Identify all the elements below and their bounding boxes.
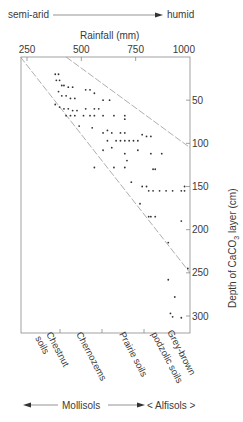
data-point xyxy=(59,79,61,81)
data-point xyxy=(93,167,95,169)
soil-label-chernozems: Chernozems xyxy=(74,330,109,383)
data-point xyxy=(161,153,163,155)
data-point xyxy=(137,140,139,142)
data-point xyxy=(120,132,122,134)
data-point xyxy=(124,167,126,169)
data-point xyxy=(148,190,150,192)
data-point xyxy=(124,140,126,142)
data-point xyxy=(167,242,169,244)
soil-labels: soils Chestnut Chernozems Prairie soils … xyxy=(33,328,198,385)
data-point xyxy=(180,317,182,319)
semi-arid-label: semi-arid xyxy=(8,9,49,20)
data-point xyxy=(58,73,60,75)
data-point xyxy=(93,108,95,110)
data-point xyxy=(115,140,117,142)
data-point xyxy=(89,89,91,91)
x-axis-title: Rainfall (mm) xyxy=(80,30,139,41)
data-point xyxy=(109,99,111,101)
data-point xyxy=(63,108,65,110)
data-point xyxy=(184,186,186,188)
data-point xyxy=(93,115,95,117)
data-point xyxy=(70,98,72,100)
data-point xyxy=(61,85,63,87)
mollisols-label: Mollisols xyxy=(62,400,100,411)
data-points xyxy=(54,73,188,318)
data-point xyxy=(111,132,113,134)
data-point xyxy=(70,115,72,117)
data-point xyxy=(154,216,156,218)
data-point xyxy=(174,296,176,298)
x-axis-ticks: 2505007501000 xyxy=(19,44,196,61)
data-point xyxy=(133,140,135,142)
data-point xyxy=(165,190,167,192)
humid-label: humid xyxy=(167,9,194,20)
data-point xyxy=(150,136,152,138)
y-tick-label: 250 xyxy=(192,267,209,278)
data-point xyxy=(167,279,169,281)
data-point xyxy=(124,132,126,134)
data-point xyxy=(139,203,141,205)
data-point xyxy=(146,136,148,138)
data-point xyxy=(72,86,74,88)
data-point xyxy=(111,147,113,149)
x-tick-label: 500 xyxy=(73,44,90,55)
data-point xyxy=(74,115,76,117)
data-point xyxy=(93,92,95,94)
plot-frame xyxy=(21,57,190,333)
data-point xyxy=(61,95,63,97)
data-point xyxy=(150,153,152,155)
alfisols-label: < Alfisols > xyxy=(147,400,196,411)
data-point xyxy=(126,160,128,162)
data-point xyxy=(141,186,143,188)
data-point xyxy=(124,153,126,155)
data-point xyxy=(102,132,104,134)
arrow-right-icon xyxy=(155,13,163,18)
data-point xyxy=(130,181,132,183)
data-point xyxy=(107,129,109,131)
data-point xyxy=(172,190,174,192)
data-point xyxy=(65,95,67,97)
data-point xyxy=(148,216,150,218)
arrow-right-icon xyxy=(137,403,145,408)
data-point xyxy=(154,168,156,170)
data-point xyxy=(67,108,69,110)
data-point xyxy=(187,268,189,270)
data-point xyxy=(102,115,104,117)
data-point xyxy=(91,127,93,129)
envelope-lower-bound xyxy=(20,57,190,273)
x-tick-label: 750 xyxy=(127,44,144,55)
data-point xyxy=(124,115,126,117)
data-point xyxy=(107,140,109,142)
x-tick-label: 250 xyxy=(19,44,36,55)
data-point xyxy=(150,216,152,218)
climate-gradient-header: semi-arid humid xyxy=(8,9,194,20)
data-point xyxy=(152,168,154,170)
scatter-chart: semi-arid humid Rainfall (mm) 2505007501… xyxy=(0,0,243,422)
data-point xyxy=(120,140,122,142)
y-axis-ticks: 50100150200250300 xyxy=(186,95,209,322)
data-point xyxy=(98,108,100,110)
soil-label-prairie: Prairie soils xyxy=(117,330,150,379)
y-tick-label: 100 xyxy=(192,138,209,149)
y-tick-label: 50 xyxy=(192,95,204,106)
data-point xyxy=(58,91,60,93)
data-point xyxy=(89,115,91,117)
data-point xyxy=(172,316,174,318)
data-point xyxy=(85,108,87,110)
data-point xyxy=(65,115,67,117)
y-tick-label: 300 xyxy=(192,311,209,322)
data-point xyxy=(141,134,143,136)
data-point xyxy=(128,140,130,142)
y-axis-title: Depth of CaCO3 layer (cm) xyxy=(227,188,240,308)
soil-order-footer: Mollisols < Alfisols > xyxy=(23,400,196,411)
data-point xyxy=(63,85,65,87)
data-point xyxy=(152,190,154,192)
envelope-lines xyxy=(20,57,190,273)
data-point xyxy=(67,86,69,88)
data-point xyxy=(78,125,80,127)
y-tick-label: 150 xyxy=(192,181,209,192)
data-point xyxy=(180,190,182,192)
data-point xyxy=(170,313,172,315)
data-point xyxy=(85,89,87,91)
data-point xyxy=(180,220,182,222)
